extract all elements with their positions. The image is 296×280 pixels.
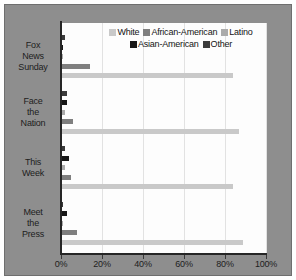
legend-entry-white: White (109, 26, 139, 38)
chart-legend: WhiteAfrican-AmericanLatino Asian-Americ… (97, 26, 265, 50)
gridline-60 (184, 23, 185, 253)
legend-label-other: Other (211, 39, 233, 49)
category-label-line: Face (7, 96, 59, 107)
legend-entry-african-american: African-American (143, 26, 217, 38)
legend-swatch-african-american (143, 29, 150, 36)
legend-entry-other: Other (203, 38, 233, 50)
y-axis-line (60, 21, 62, 255)
bar (61, 240, 243, 245)
legend-swatch-asian-american (130, 41, 137, 48)
category-label-line: Nation (7, 118, 59, 129)
x-tick-label-100: 100% (246, 259, 286, 269)
bar (61, 73, 233, 78)
category-label-fox-news-sunday: FoxNewsSunday (7, 40, 59, 73)
legend-label-asian-american: Asian-American (138, 39, 199, 49)
legend-label-white: White (117, 27, 139, 37)
legend-entry-latino: Latino (221, 26, 252, 38)
x-tick-label-60: 60% (164, 259, 204, 269)
x-tick-label-20: 20% (82, 259, 122, 269)
x-tick-label-80: 80% (205, 259, 245, 269)
gridline-40 (143, 23, 144, 253)
x-tick-label-0: 0% (41, 259, 81, 269)
category-label-line: the (7, 107, 59, 118)
bar (61, 156, 69, 161)
category-label-line: Fox (7, 40, 59, 51)
bar (61, 230, 77, 235)
bar (61, 119, 73, 124)
bar (61, 184, 233, 189)
legend-row-1: WhiteAfrican-AmericanLatino (97, 26, 265, 38)
legend-swatch-latino (221, 29, 228, 36)
x-tick-label-40: 40% (123, 259, 163, 269)
category-label-line: Meet (7, 207, 59, 218)
gridline-80 (225, 23, 226, 253)
category-label-line: News (7, 51, 59, 62)
chart-screenshot: 0%20%40%60%80%100%FoxNewsSundayFacetheNa… (0, 0, 296, 280)
category-label-line: This (7, 157, 59, 168)
category-label-line: Press (7, 229, 59, 240)
chart-panel: 0%20%40%60%80%100%FoxNewsSundayFacetheNa… (4, 4, 292, 276)
legend-entry-asian-american: Asian-American (130, 38, 199, 50)
gridline-100 (266, 23, 267, 253)
plot-area (61, 23, 266, 253)
legend-swatch-white (109, 29, 116, 36)
legend-row-2: Asian-AmericanOther (97, 38, 265, 50)
gridline-20 (102, 23, 103, 253)
legend-swatch-other (203, 41, 210, 48)
category-label-this-week: ThisWeek (7, 157, 59, 179)
category-label-face-the-nation: FacetheNation (7, 96, 59, 129)
category-label-line: Sunday (7, 62, 59, 73)
category-label-line: the (7, 218, 59, 229)
bar (61, 175, 71, 180)
legend-label-african-american: African-American (151, 27, 217, 37)
bar (61, 129, 239, 134)
category-label-meet-the-press: MeetthePress (7, 207, 59, 240)
x-axis-line (60, 253, 267, 255)
category-label-line: Week (7, 168, 59, 179)
bar (61, 64, 90, 69)
legend-label-latino: Latino (229, 27, 252, 37)
